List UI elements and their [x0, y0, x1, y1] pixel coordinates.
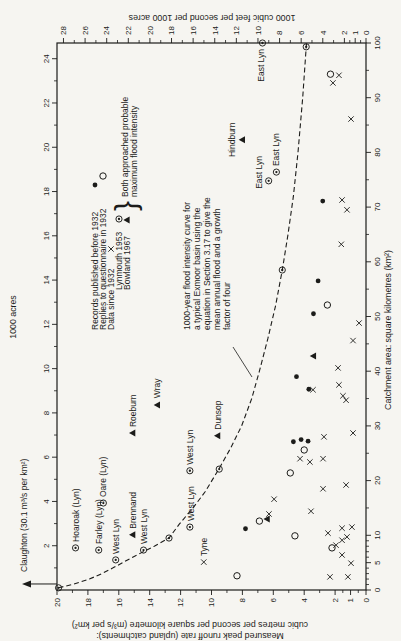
x-axis-tick-label: 50 [373, 312, 382, 321]
data-point-cross [349, 524, 354, 529]
data-point-triangle [129, 430, 135, 437]
right-axis-tick-label: 10 [254, 26, 263, 35]
x-axis-tick-label: 10 [373, 530, 382, 539]
data-point-cross [201, 559, 206, 564]
data-point-cross [307, 459, 312, 464]
data-point-triangle [129, 531, 135, 538]
curve-annotation-line: 1000-year flood intensity curve for [182, 202, 192, 330]
data-point-cross [339, 552, 344, 557]
data-point-circdot [218, 468, 220, 470]
data-point-dot [291, 439, 296, 444]
data-point-circdot [281, 269, 283, 271]
y-axis-tick-label: 12 [176, 597, 185, 606]
top-axis-tick-label: 12 [42, 319, 51, 328]
data-point-dot [294, 374, 299, 379]
top-axis-title: 1000 acres [8, 295, 18, 339]
y-axis-tick-label: 6 [269, 597, 278, 602]
legend-circdot-icon [118, 218, 120, 220]
data-point-cross [350, 338, 355, 343]
data-point-circdot [142, 549, 144, 551]
data-point-cross [330, 80, 335, 85]
x-axis-tick-label: 90 [373, 93, 382, 102]
data-point-label: West Lyn [111, 519, 121, 554]
data-point-cross [350, 430, 355, 435]
data-point-cross [297, 456, 302, 461]
x-axis-tick-label: 60 [373, 257, 382, 266]
data-point-dot [299, 437, 304, 442]
top-axis-tick-label: 10 [42, 364, 51, 373]
y-axis-tick-label: 16 [115, 597, 124, 606]
data-point-cross [343, 397, 348, 402]
data-point-label: Oare (Lyn) [98, 457, 108, 497]
y-axis-tick-label: 20 [53, 597, 62, 606]
data-point-circle [301, 447, 307, 453]
right-axis-tick-label: 2 [340, 30, 349, 35]
data-point-circdot [57, 587, 59, 589]
right-axis-tick-label: 4 [319, 30, 328, 35]
right-axis-tick-label: 16 [189, 26, 198, 35]
data-point-cross [336, 382, 341, 387]
y-axis-tick-label: 18 [84, 597, 93, 606]
data-point-cross [327, 574, 332, 579]
data-point-circle [327, 71, 333, 77]
data-point-cross [343, 482, 348, 487]
right-axis-tick-label: 8 [275, 30, 284, 35]
y-axis-tick-label: 0 [362, 597, 371, 602]
data-point-label: Brennand [128, 492, 138, 529]
data-point-circdot [74, 547, 76, 549]
data-point-circle [324, 302, 330, 308]
data-point-cross [308, 509, 313, 514]
data-point-label: Farley (Lyn) [94, 499, 104, 544]
top-axis-tick-label: 14 [42, 275, 51, 284]
data-point-dot [316, 279, 321, 284]
data-point-cross [356, 320, 361, 325]
right-axis-tick-label: 26 [81, 26, 90, 35]
data-point-label: Tyne [199, 537, 209, 556]
data-point-circdot [98, 549, 100, 551]
y-axis-tick-label: 14 [146, 597, 155, 606]
legend-label: Bowland 1967 [122, 236, 132, 290]
right-axis-tick-label: 1 [351, 30, 360, 35]
right-axis-tick-label: 28 [59, 26, 68, 35]
legend-brace: } [109, 201, 142, 211]
data-point-circdot [261, 42, 263, 44]
chart-canvas-rotated: 05102030405060708090100Catchment area: s… [0, 0, 401, 641]
data-point-cross [320, 456, 325, 461]
data-point-triangle [310, 352, 316, 359]
data-point-cross [325, 530, 330, 535]
legend-note-line: maximum flood intensity [129, 105, 139, 197]
right-axis-title: 1000 cubic feet per second per 1000 acre… [128, 13, 295, 23]
legend-cross-icon [108, 246, 113, 251]
data-point-cross [335, 365, 340, 370]
curve-annotation-line: a typical Exmoor basin using the [192, 207, 202, 330]
data-point-label: Wray [152, 378, 162, 398]
y-axis-tick-label: 1 [346, 597, 355, 602]
data-point-cross [340, 393, 345, 398]
data-point-dot [320, 199, 325, 204]
data-point-label: West Lyn [139, 509, 149, 544]
data-point-cross [339, 538, 344, 543]
right-axis-tick-label: 18 [167, 26, 176, 35]
y-axis-tick-label: 4 [300, 597, 309, 602]
data-point-circle [287, 470, 293, 476]
data-point-label: Hoaroak (Lyn) [71, 488, 81, 542]
curve-annotation-line: mean annual flood and a growth [212, 208, 222, 330]
legend-triangle-icon [123, 217, 129, 224]
data-point-cross [348, 116, 353, 121]
data-point-circle [292, 533, 298, 539]
legend-circle-icon [100, 173, 106, 179]
claughton-arrow-head [22, 580, 31, 587]
top-axis-tick-label: 16 [42, 231, 51, 240]
data-point-label: East Lyn [254, 156, 264, 189]
right-axis-tick-label: 0 [362, 30, 371, 35]
data-point-label: Dunsop [213, 400, 223, 430]
data-point-cross [339, 197, 344, 202]
data-point-circle [234, 573, 240, 579]
x-axis-tick-label: 0 [373, 587, 382, 592]
x-axis-title: Catchment area: square kilometres (km²) [383, 250, 393, 410]
data-point-cross [348, 560, 353, 565]
x-axis-tick-label: 20 [373, 476, 382, 485]
y-axis-tick-label: 10 [207, 597, 216, 606]
scanned-chart-page: 05102030405060708090100Catchment area: s… [0, 0, 401, 641]
data-point-label: West Lyn [185, 430, 195, 465]
